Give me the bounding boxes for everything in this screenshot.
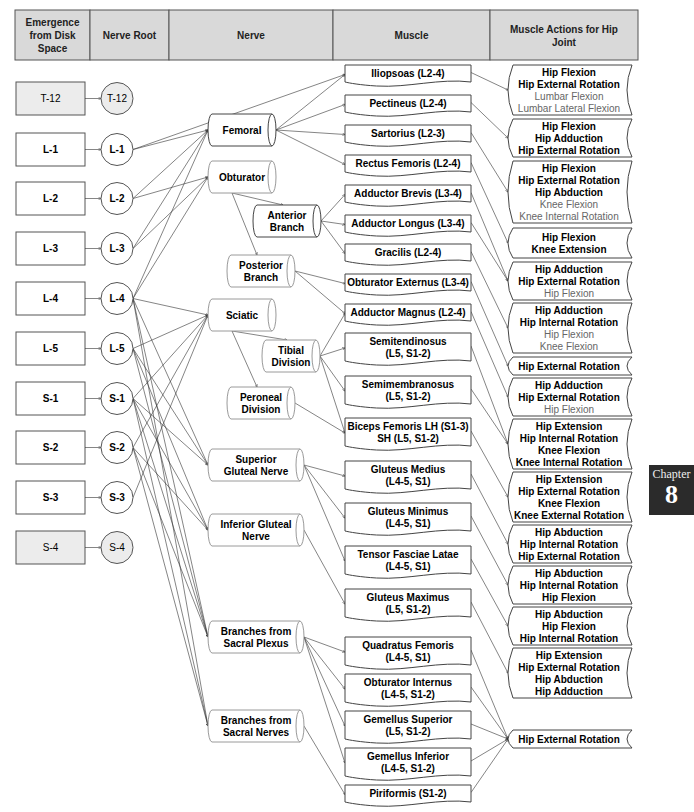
nerve-label: Tibial bbox=[278, 345, 304, 356]
primary-action: Hip External Rotation bbox=[518, 551, 620, 562]
muscle-action-box: Hip AbductionHip Internal RotationHip Ex… bbox=[508, 525, 632, 563]
muscle-label: Semitendinosus bbox=[369, 336, 447, 347]
primary-action: Hip Flexion bbox=[542, 232, 596, 243]
primary-action: Hip Abduction bbox=[535, 527, 603, 538]
disk-space-label: S-3 bbox=[43, 492, 59, 503]
root-to-nerve-line bbox=[133, 299, 208, 727]
chapter-tab: Chapter 8 bbox=[649, 465, 694, 515]
primary-action: Hip External Rotation bbox=[518, 79, 620, 90]
nerve-to-muscle-line bbox=[276, 130, 345, 135]
muscle-adductor-brevis: Adductor Brevis (L3-4) bbox=[345, 185, 471, 206]
muscle-label: Gluteus Minimus bbox=[368, 506, 449, 517]
primary-action: Hip Internal Rotation bbox=[520, 633, 618, 644]
nerve-label: Anterior bbox=[268, 210, 307, 221]
muscle-piriformis: Piriformis (S1-2) bbox=[345, 785, 471, 806]
primary-action: Hip Adduction bbox=[535, 133, 603, 144]
nerve-label: Division bbox=[242, 404, 281, 415]
nerve-root-column: T-12L-1L-2L-3L-4L-5S-1S-2S-3S-4 bbox=[101, 83, 133, 564]
nerve-anterior: AnteriorBranch bbox=[253, 205, 321, 237]
header-label: Joint bbox=[552, 37, 577, 48]
muscle-action-box: Hip FlexionHip External RotationLumbar F… bbox=[508, 65, 632, 115]
nerve-root-label: S-1 bbox=[109, 393, 125, 404]
muscle-action-box: Hip ExtensionHip External RotationKnee F… bbox=[508, 472, 632, 522]
primary-action: Hip Flexion bbox=[542, 121, 596, 132]
header-label: Nerve bbox=[237, 30, 265, 41]
muscle-label: Adductor Magnus (L2-4) bbox=[351, 307, 466, 318]
primary-action: Hip External Rotation bbox=[518, 145, 620, 156]
nerve-obturator: Obturator bbox=[208, 161, 276, 193]
nerve-root-label: T-12 bbox=[107, 93, 127, 104]
disk-space-s-1: S-1 bbox=[16, 382, 101, 415]
nerve-root-s-1: S-1 bbox=[101, 383, 133, 415]
muscle-label: (L4-5, S1) bbox=[385, 652, 430, 663]
secondary-action: Lumbar Flexion bbox=[535, 91, 604, 102]
nerve-root-t-12: T-12 bbox=[101, 83, 133, 115]
header-label: from Disk bbox=[29, 30, 76, 41]
nerve-root-label: S-2 bbox=[109, 442, 125, 453]
muscle-obturator-externus: Obturator Externus (L3-4) bbox=[345, 274, 471, 295]
nerve-root-label: S-3 bbox=[109, 492, 125, 503]
muscle-label: (L4-5, S1-2) bbox=[381, 763, 435, 774]
primary-action: Hip External Rotation bbox=[518, 276, 620, 287]
header-cell: Nerve Root bbox=[90, 10, 169, 60]
nerve-root-label: L-4 bbox=[110, 293, 125, 304]
primary-action: Hip Abduction bbox=[535, 568, 603, 579]
nerve-root-label: L-5 bbox=[110, 343, 125, 354]
muscle-label: Sartorius (L2-3) bbox=[371, 128, 445, 139]
muscle-to-action-line bbox=[471, 474, 508, 544]
nerve-label: Branches from bbox=[221, 715, 292, 726]
disk-space-label: S-1 bbox=[43, 393, 59, 404]
chapter-number: 8 bbox=[649, 482, 694, 508]
disk-space-label: L-2 bbox=[43, 193, 58, 204]
root-to-nerve-line bbox=[133, 448, 208, 638]
primary-action: Hip External Rotation bbox=[518, 361, 620, 372]
disk-space-column: T-12L-1L-2L-3L-4L-5S-1S-2S-3S-4 bbox=[16, 82, 101, 564]
nerve-label: Sacral Nerves bbox=[223, 727, 290, 738]
muscle-column: Iliopsoas (L2-4)Pectineus (L2-4)Sartoriu… bbox=[345, 65, 471, 806]
muscle-label: Obturator Externus (L3-4) bbox=[347, 277, 469, 288]
nerve-branch-line bbox=[232, 331, 287, 340]
disk-space-label: L-1 bbox=[43, 144, 58, 155]
nerve-root-l-4: L-4 bbox=[101, 283, 133, 315]
disk-space-label: S-4 bbox=[43, 542, 59, 553]
primary-action: Hip Abduction bbox=[535, 609, 603, 620]
primary-action: Hip Flexion bbox=[542, 163, 596, 174]
muscle-label: Biceps Femoris LH (S1-3) bbox=[347, 421, 468, 432]
nerve-root-label: L-1 bbox=[110, 144, 125, 155]
nerve-to-muscle-line bbox=[276, 75, 345, 131]
muscle-label: Rectus Femoris (L2-4) bbox=[355, 158, 460, 169]
primary-action: Knee Extension bbox=[531, 244, 606, 255]
secondary-action: Hip Flexion bbox=[544, 288, 594, 299]
muscle-action-box: Hip FlexionHip AdductionHip External Rot… bbox=[508, 119, 632, 157]
muscle-label: Gracilis (L2-4) bbox=[375, 247, 442, 258]
nerve-to-muscle-line bbox=[304, 637, 345, 763]
nerve-sacral-nerves: Branches fromSacral Nerves bbox=[208, 710, 304, 742]
secondary-action: Hip Flexion bbox=[544, 404, 594, 415]
muscle-label: Gluteus Medius bbox=[371, 464, 446, 475]
muscle-label: Semimembranosus bbox=[362, 379, 455, 390]
disk-space-t-12: T-12 bbox=[16, 82, 101, 115]
nerve-femoral: Femoral bbox=[208, 114, 276, 146]
nerve-label: Branches from bbox=[221, 626, 292, 637]
nerve-label: Inferior Gluteal bbox=[220, 519, 291, 530]
muscle-label: Gluteus Maximus bbox=[367, 592, 450, 603]
muscle-gluteus-medius: Gluteus Medius(L4-5, S1) bbox=[345, 461, 471, 493]
primary-action: Hip Abduction bbox=[535, 674, 603, 685]
primary-action: Hip Abduction bbox=[535, 187, 603, 198]
muscle-label: (L5, S1-2) bbox=[385, 391, 430, 402]
nerve-label: Peroneal bbox=[240, 392, 282, 403]
muscle-action-box: Hip AdductionHip External RotationHip Fl… bbox=[508, 378, 632, 416]
muscle-label: Piriformis (S1-2) bbox=[369, 788, 446, 799]
nerve-to-muscle-line bbox=[320, 314, 345, 357]
nerve-root-label: L-3 bbox=[110, 243, 125, 254]
disk-space-l-4: L-4 bbox=[16, 282, 101, 315]
nerve-to-muscle-line bbox=[320, 356, 345, 391]
disk-space-s-3: S-3 bbox=[16, 481, 101, 514]
header-label: Space bbox=[38, 43, 68, 54]
muscle-quadratus-femoris: Quadratus Femoris(L4-5, S1) bbox=[345, 637, 471, 669]
header-cell: Emergencefrom DiskSpace bbox=[15, 10, 90, 60]
primary-action: Hip Extension bbox=[536, 650, 603, 661]
nerve-column: FemoralObturatorAnteriorBranchPosteriorB… bbox=[208, 114, 321, 742]
primary-action: Hip Extension bbox=[536, 421, 603, 432]
muscle-label: Quadratus Femoris bbox=[362, 640, 454, 651]
